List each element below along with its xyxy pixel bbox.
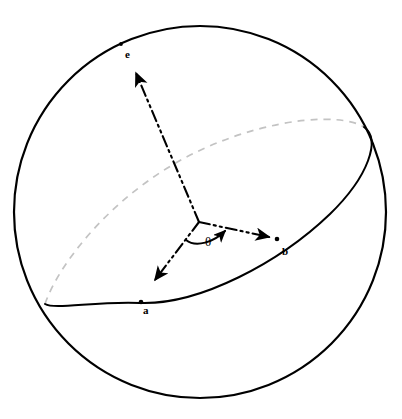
equator-back-arc	[45, 119, 364, 304]
label-angle-theta: θ	[205, 235, 211, 248]
axis-b-sphere-point	[275, 237, 280, 242]
label-vector-e: e	[125, 49, 130, 60]
equator-front-arc	[45, 127, 372, 306]
label-vector-a: a	[143, 305, 149, 316]
axis-e-sphere-point	[119, 42, 123, 46]
axis-a-group	[139, 222, 199, 304]
axis-a-line	[155, 222, 199, 280]
sphere-diagram-canvas	[0, 0, 402, 419]
sphere-diagram-figure: e b a θ	[0, 0, 402, 419]
axis-e-line	[136, 73, 199, 222]
axis-e-group	[119, 42, 199, 222]
label-vector-b: b	[282, 246, 288, 257]
sphere-outline	[14, 26, 386, 398]
